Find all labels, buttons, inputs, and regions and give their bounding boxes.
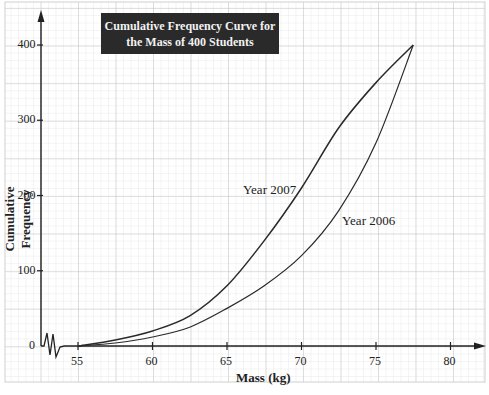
- x-tick-label: 70: [295, 354, 307, 369]
- x-tick-label: 60: [146, 354, 158, 369]
- x-tick-label: 80: [444, 354, 456, 369]
- x-axis-title: Mass (kg): [236, 370, 291, 386]
- chart-title: Cumulative Frequency Curve for the Mass …: [101, 13, 279, 54]
- y-tick-label: 0: [29, 338, 35, 353]
- chart-title-line-2: the Mass of 400 Students: [101, 34, 279, 50]
- y-tick-label: 100: [18, 263, 36, 278]
- x-tick-label: 55: [71, 354, 83, 369]
- x-tick-label: 75: [369, 354, 381, 369]
- series-label-2006: Year 2006: [342, 213, 395, 229]
- chart-title-line-1: Cumulative Frequency Curve for: [101, 18, 279, 34]
- y-tick-label: 300: [18, 112, 36, 127]
- y-tick-label: 200: [18, 188, 36, 203]
- y-axis-title: Cumulative Frequency: [2, 159, 34, 279]
- y-tick-label: 400: [18, 37, 36, 52]
- x-tick-label: 65: [220, 354, 232, 369]
- series-label-2007: Year 2007: [243, 182, 296, 198]
